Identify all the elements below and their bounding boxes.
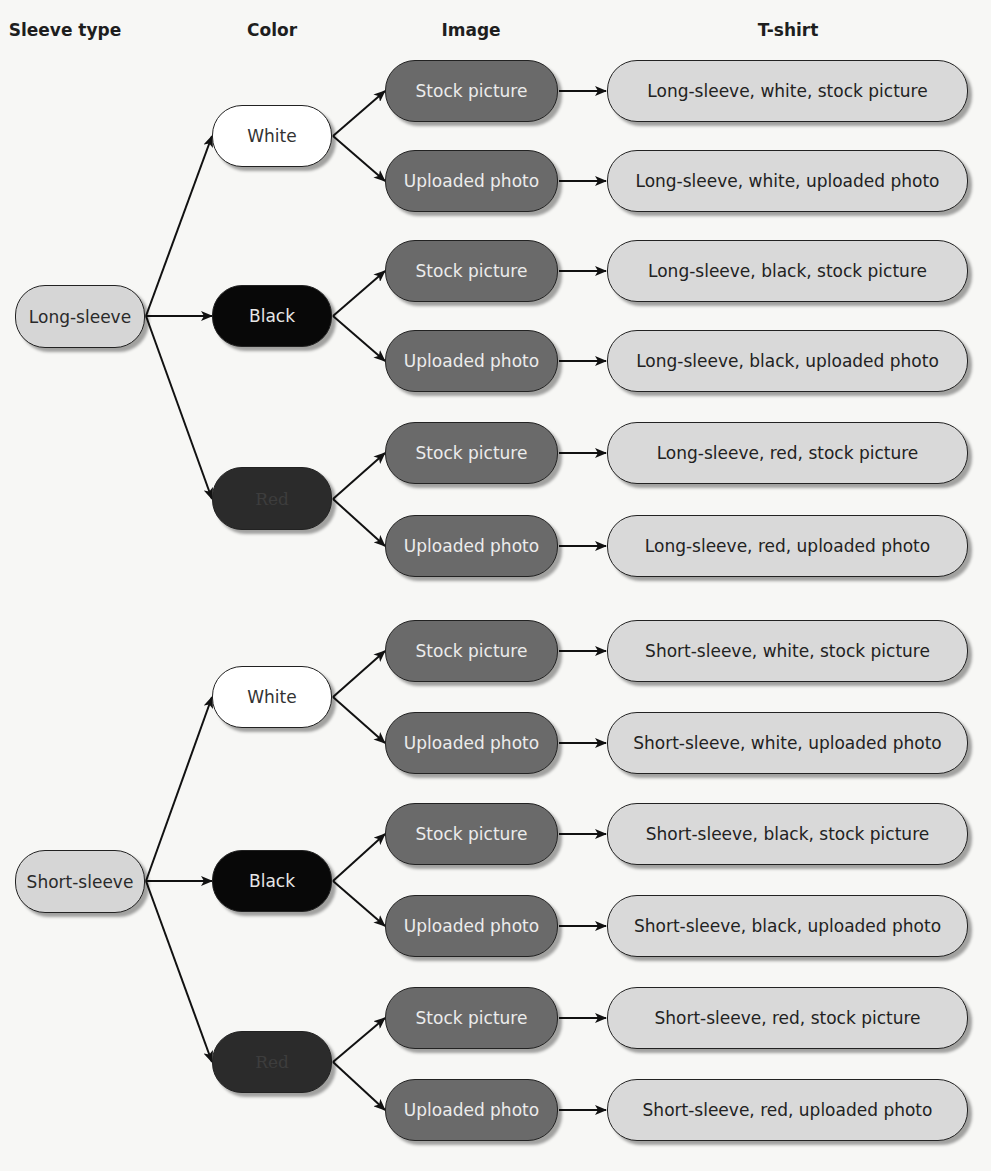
color-node-red: Red: [212, 1031, 332, 1093]
sleeve-node-long: Long-sleeve: [15, 285, 145, 348]
tshirt-node: Short-sleeve, red, stock picture: [607, 987, 968, 1049]
color-node-black: Black: [212, 285, 332, 347]
image-node-stock: Stock picture: [385, 803, 558, 865]
tshirt-node: Long-sleeve, white, uploaded photo: [607, 150, 968, 212]
tshirt-node: Long-sleeve, black, uploaded photo: [607, 330, 968, 392]
tshirt-node: Short-sleeve, red, uploaded photo: [607, 1079, 968, 1141]
image-node-stock: Stock picture: [385, 987, 558, 1049]
image-node-uploaded: Uploaded photo: [385, 330, 558, 392]
tshirt-node: Short-sleeve, white, stock picture: [607, 620, 968, 682]
color-node-black: Black: [212, 850, 332, 912]
color-node-white: White: [212, 666, 332, 728]
tshirt-node: Long-sleeve, red, uploaded photo: [607, 515, 968, 577]
image-node-stock: Stock picture: [385, 240, 558, 302]
tree-diagram: Sleeve type Color Image T-shirt Long-sle…: [0, 0, 991, 1171]
tshirt-node: Long-sleeve, white, stock picture: [607, 60, 968, 122]
image-node-stock: Stock picture: [385, 422, 558, 484]
color-node-red: Red: [212, 467, 332, 530]
tshirt-node: Long-sleeve, red, stock picture: [607, 422, 968, 484]
image-node-stock: Stock picture: [385, 620, 558, 682]
image-node-uploaded: Uploaded photo: [385, 895, 558, 957]
tshirt-node: Long-sleeve, black, stock picture: [607, 240, 968, 302]
image-node-uploaded: Uploaded photo: [385, 150, 558, 212]
header-image: Image: [441, 20, 500, 40]
header-color: Color: [247, 20, 297, 40]
header-sleeve-type: Sleeve type: [9, 20, 122, 40]
color-node-white: White: [212, 105, 332, 167]
image-node-uploaded: Uploaded photo: [385, 515, 558, 577]
tshirt-node: Short-sleeve, black, stock picture: [607, 803, 968, 865]
image-node-stock: Stock picture: [385, 60, 558, 122]
sleeve-node-short: Short-sleeve: [15, 850, 145, 913]
tshirt-node: Short-sleeve, black, uploaded photo: [607, 895, 968, 957]
image-node-uploaded: Uploaded photo: [385, 1079, 558, 1141]
image-node-uploaded: Uploaded photo: [385, 712, 558, 774]
header-tshirt: T-shirt: [758, 20, 819, 40]
tshirt-node: Short-sleeve, white, uploaded photo: [607, 712, 968, 774]
